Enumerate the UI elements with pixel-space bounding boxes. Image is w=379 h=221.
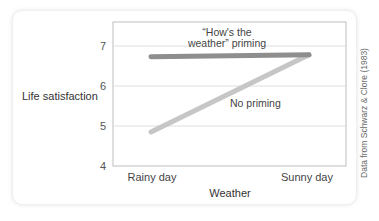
x-tick-sunny-day: Sunny day — [281, 171, 333, 183]
series-label-no-priming: No priming — [230, 97, 281, 109]
line-chart: 7 6 5 4 Life satisfaction Rainy day Sunn… — [0, 0, 379, 221]
source-credit: Data from Schwarz & Clore (1983) — [359, 48, 369, 178]
x-tick-rainy-day: Rainy day — [128, 171, 177, 183]
x-axis-label: Weather — [209, 187, 251, 199]
y-axis-label: Life satisfaction — [22, 90, 98, 102]
series-line-no-priming — [151, 55, 309, 132]
series-line-weather-priming — [151, 55, 309, 57]
y-tick-6: 6 — [100, 80, 106, 92]
series-label-weather-priming-line2: weather” priming — [187, 37, 266, 49]
y-tick-4: 4 — [100, 160, 106, 172]
y-tick-5: 5 — [100, 120, 106, 132]
y-tick-7: 7 — [100, 40, 106, 52]
